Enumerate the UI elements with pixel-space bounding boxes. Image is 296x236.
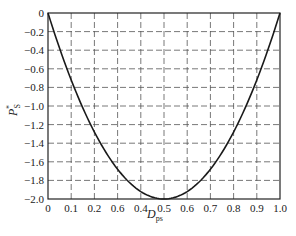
- x-tick-label: 0.2: [88, 202, 102, 214]
- x-axis-label-main: D: [146, 207, 156, 221]
- x-tick-label: 0.9: [250, 202, 264, 214]
- x-tick-label: 0.7: [204, 202, 218, 214]
- x-axis-tick-labels: 00.10.20.60.40.50.60.70.80.91.0: [45, 202, 287, 214]
- y-tick-label: −0.8: [24, 81, 44, 93]
- chart: 00.10.20.60.40.50.60.70.80.91.0 0−0.2−0.…: [0, 0, 296, 236]
- y-tick-label: −0.4: [24, 44, 44, 56]
- y-tick-label: −1.4: [24, 137, 44, 149]
- y-axis-label-sub: S: [13, 104, 22, 108]
- y-tick-label: −1.2: [24, 119, 44, 131]
- x-tick-label: 0.8: [227, 202, 241, 214]
- x-tick-label: 0.1: [64, 202, 78, 214]
- y-tick-label: −2.0: [24, 193, 44, 205]
- x-tick-label: 0.6: [111, 202, 125, 214]
- x-tick-label: 0.5: [157, 202, 171, 214]
- x-tick-label: 0: [45, 202, 51, 214]
- y-axis-tick-labels: 0−0.2−0.4−0.6−0.8−1.0−1.2−1.4−1.6−1.8−2.…: [24, 7, 44, 205]
- y-tick-label: −1.0: [24, 100, 44, 112]
- y-axis-label: PS*: [5, 104, 22, 117]
- y-tick-label: −0.6: [24, 63, 44, 75]
- x-axis-label-sub: ps: [156, 214, 163, 223]
- x-tick-label: 0.6: [180, 202, 194, 214]
- y-tick-label: −1.6: [24, 156, 44, 168]
- x-tick-label: 1.0: [273, 202, 287, 214]
- x-tick-label: 0.4: [134, 202, 148, 214]
- y-tick-label: 0: [39, 7, 45, 19]
- y-axis-label-sup: *: [5, 105, 14, 109]
- y-tick-label: −1.8: [24, 174, 44, 186]
- y-tick-label: −0.2: [24, 26, 44, 38]
